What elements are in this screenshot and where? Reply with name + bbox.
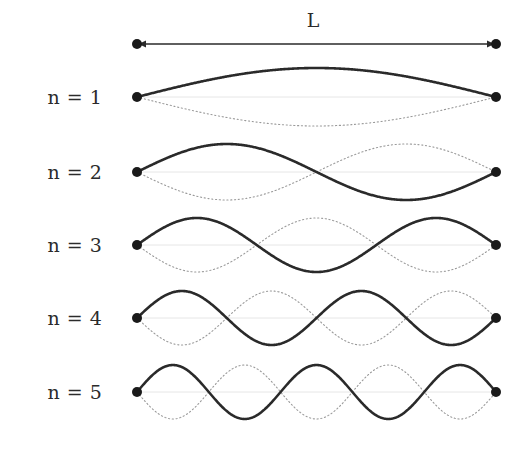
dimension-endpoint-dot-right	[491, 39, 501, 49]
length-label: L	[307, 9, 320, 31]
node-dot-right	[491, 313, 501, 323]
dimension-arrow-group	[132, 39, 501, 49]
node-dot-right	[491, 387, 501, 397]
solid-curves-group	[137, 68, 496, 419]
dotted-curves-group	[137, 97, 496, 419]
node-dot-right	[491, 240, 501, 250]
mode-label-n5: n = 5	[48, 381, 103, 403]
node-dot-left	[132, 240, 142, 250]
standing-wave-figure: n = 1n = 2n = 3n = 4n = 5 L	[0, 0, 532, 449]
node-dot-right	[491, 92, 501, 102]
mode-label-n3: n = 3	[48, 234, 103, 256]
node-dot-left	[132, 92, 142, 102]
dotted-wave-curve	[137, 97, 496, 126]
node-dot-right	[491, 167, 501, 177]
solid-wave-curve	[137, 68, 496, 97]
mode-label-n4: n = 4	[48, 307, 103, 329]
node-dot-left	[132, 387, 142, 397]
node-dot-left	[132, 167, 142, 177]
baselines-group	[137, 97, 496, 392]
dimension-endpoint-dot-left	[132, 39, 142, 49]
mode-label-n2: n = 2	[48, 161, 103, 183]
mode-label-n1: n = 1	[48, 86, 103, 108]
node-dot-left	[132, 313, 142, 323]
